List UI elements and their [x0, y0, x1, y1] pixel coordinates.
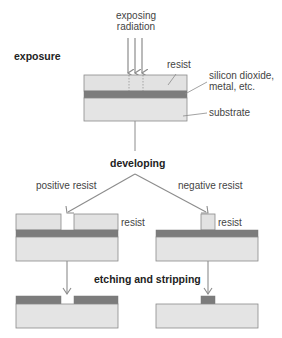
substrate-layer [84, 98, 187, 121]
label-radiation: radiation [108, 21, 164, 32]
label-negative-resist: negative resist [178, 180, 242, 191]
label-developing: developing [110, 158, 165, 169]
label-resist-top: resist [167, 59, 191, 70]
label-exposure: exposure [14, 51, 61, 62]
label-exposing-radiation: exposing radiation [108, 10, 164, 32]
negative-etched-stack [156, 296, 258, 328]
label-oxide: silicon dioxide, metal, etc. [209, 70, 274, 92]
positive-developed-stack [16, 214, 118, 261]
label-positive-resist: positive resist [36, 180, 97, 191]
label-resist-right: resist [218, 217, 242, 228]
label-etching-and-stripping: etching and stripping [94, 274, 201, 285]
exposure-stack [84, 75, 187, 121]
resist-layer [84, 75, 187, 91]
negative-developed-stack [156, 214, 258, 261]
label-exposing: exposing [108, 10, 164, 21]
radiation-arrows [128, 38, 142, 73]
label-oxide-line1: silicon dioxide, [209, 70, 274, 81]
positive-etched-stack [16, 296, 118, 328]
label-resist-left: resist [121, 217, 145, 228]
label-oxide-line2: metal, etc. [209, 81, 274, 92]
label-substrate: substrate [209, 107, 250, 118]
oxide-layer [84, 91, 187, 98]
